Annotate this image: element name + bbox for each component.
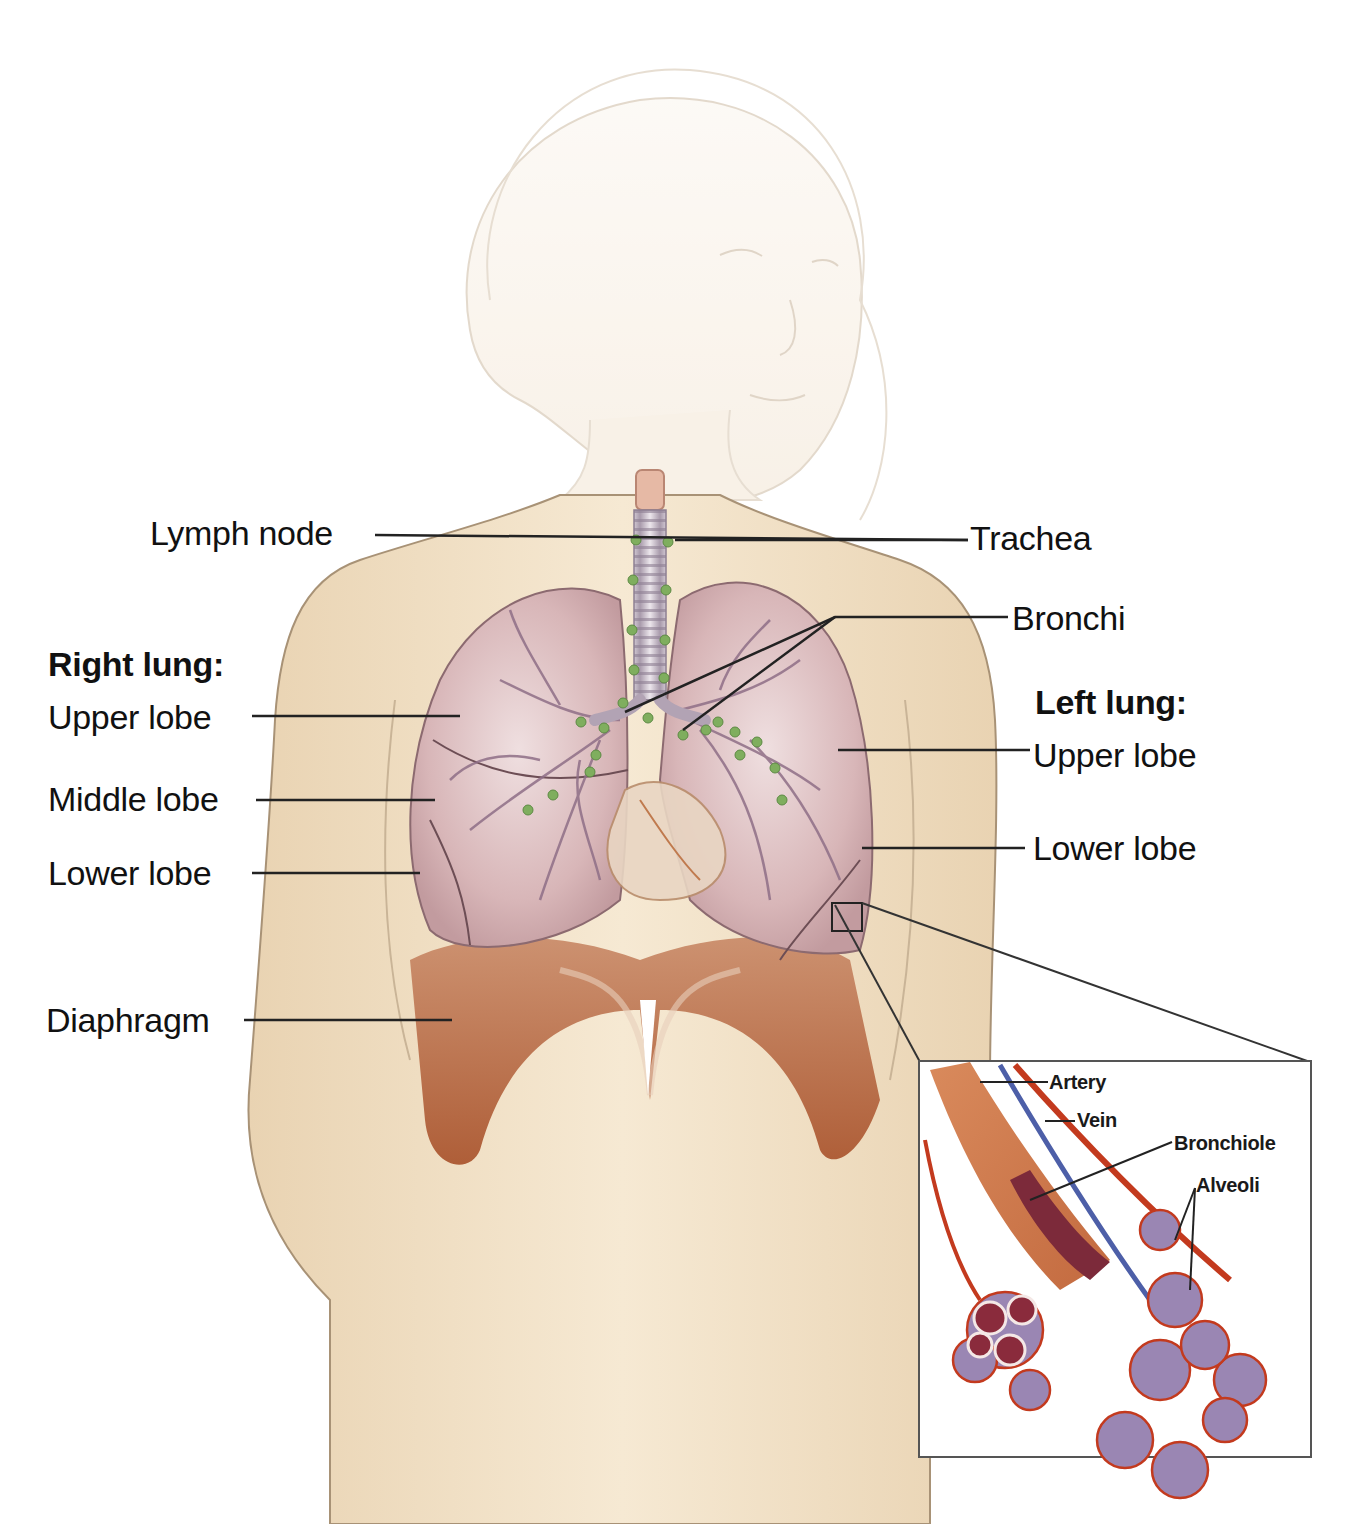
label-trachea: Trachea [970, 521, 1091, 555]
inset-label-bronchiole: Bronchiole [1174, 1133, 1275, 1153]
inset-label-vein: Vein [1077, 1110, 1117, 1130]
label-right-lower-lobe: Lower lobe [48, 856, 211, 890]
label-left-upper-lobe: Upper lobe [1033, 738, 1196, 772]
head-outline [467, 69, 887, 520]
label-right-lung-heading: Right lung: [48, 647, 224, 681]
inset-label-alveoli: Alveoli [1196, 1175, 1259, 1195]
label-left-lung-heading: Left lung: [1035, 685, 1187, 719]
label-right-upper-lobe: Upper lobe [48, 700, 211, 734]
label-lymph-node: Lymph node [150, 516, 333, 550]
label-bronchi: Bronchi [1012, 601, 1125, 635]
inset-label-artery: Artery [1049, 1072, 1106, 1092]
label-right-middle-lobe: Middle lobe [48, 782, 219, 816]
label-diaphragm: Diaphragm [46, 1003, 210, 1037]
label-left-lower-lobe: Lower lobe [1033, 831, 1196, 865]
